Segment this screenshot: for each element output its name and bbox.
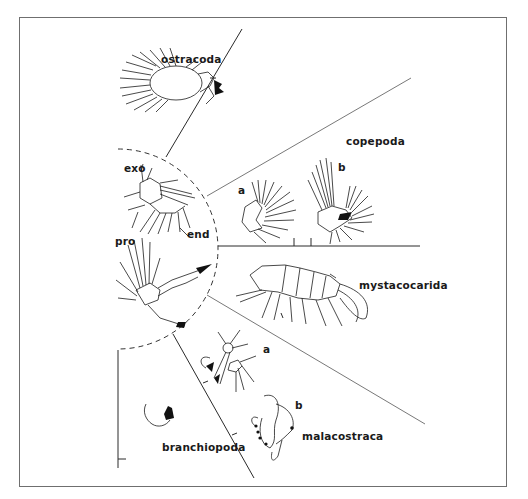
label-mystacocarida: mystacocarida	[359, 280, 448, 291]
label-copepoda-b: b	[338, 162, 346, 173]
ostracoda-divider	[166, 29, 242, 157]
malacostraca-b-drawing	[252, 395, 294, 460]
label-branchiopoda: branchiopoda	[162, 442, 246, 453]
scale-tick	[281, 313, 283, 318]
diagram-lines	[0, 0, 528, 499]
mystacocarida-drawing	[236, 265, 368, 326]
branchiopoda-drawing	[144, 404, 174, 426]
label-ostracoda: ostracoda	[161, 54, 222, 65]
label-malacostraca-a: a	[263, 344, 270, 355]
label-copepoda: copepoda	[346, 136, 405, 147]
malacostraca-a-drawing	[201, 330, 256, 392]
label-malacostraca-b: b	[295, 400, 303, 411]
label-end: end	[187, 229, 210, 240]
label-exo: exo	[124, 163, 146, 174]
pro-pointer	[132, 212, 138, 228]
scale-tick	[232, 433, 237, 435]
mystacocarida-lower-divider	[207, 295, 425, 424]
label-copepoda-a: a	[238, 185, 245, 196]
label-malacostraca: malacostraca	[302, 431, 383, 442]
label-pro: pro	[115, 236, 136, 247]
dashed-arc	[118, 149, 218, 349]
figure: ostracoda copepoda a b mystacocarida a b…	[0, 0, 528, 499]
scale-tick	[203, 381, 208, 383]
branchiopoda-divider	[173, 334, 254, 478]
central-appendage-lower	[116, 238, 212, 328]
copepoda-a-drawing	[242, 180, 296, 243]
